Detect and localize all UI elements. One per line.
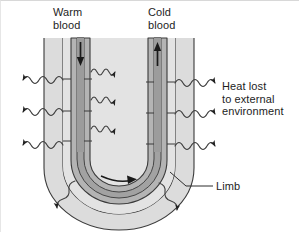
label-cold-blood: Cold blood <box>148 6 175 31</box>
label-heat-lost: Heat lost to external environment <box>222 80 284 118</box>
vessel-cold-blood <box>154 38 161 152</box>
figure-canvas: Warm blood Cold blood Heat lost to exter… <box>0 0 299 232</box>
label-limb: Limb <box>216 180 240 193</box>
label-warm-blood: Warm blood <box>53 6 82 31</box>
vessel-warm-blood <box>77 38 84 152</box>
